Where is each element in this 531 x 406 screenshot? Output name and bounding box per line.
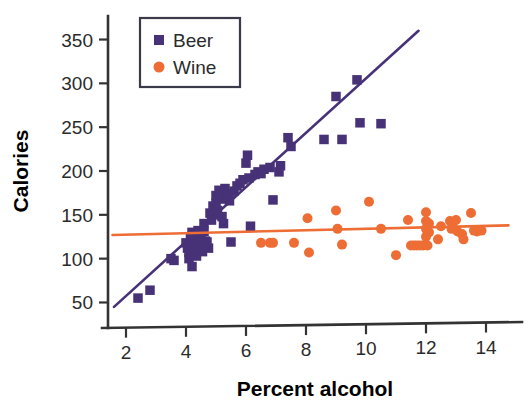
y-tick-label: 250 [61, 117, 93, 138]
y-tick-label: 50 [72, 292, 93, 313]
y-tick-label: 300 [61, 73, 93, 94]
data-point-beer [169, 256, 179, 266]
data-point-wine [364, 197, 374, 207]
data-point-beer [276, 161, 286, 171]
series-wine [113, 197, 509, 260]
data-point-beer [355, 118, 365, 128]
data-point-wine [337, 240, 347, 250]
data-point-wine [256, 238, 266, 248]
data-point-wine [331, 205, 341, 215]
data-point-beer [268, 195, 278, 205]
data-point-wine [477, 226, 487, 236]
data-point-beer [265, 163, 275, 173]
data-point-wine [436, 221, 446, 231]
x-axis-line [102, 322, 522, 328]
y-tick-label: 200 [61, 161, 93, 182]
data-point-wine [433, 234, 443, 244]
data-point-wine [421, 207, 431, 217]
data-point-beer [225, 196, 235, 206]
data-point-wine [424, 227, 434, 237]
data-point-wine [304, 248, 314, 258]
legend-label-wine: Wine [173, 57, 216, 78]
scatter-chart: 501001502002503003502468101214Percent al… [0, 0, 531, 406]
data-point-beer [145, 285, 155, 295]
data-point-wine [391, 250, 401, 260]
data-point-wine [451, 215, 461, 225]
legend-label-beer: Beer [173, 30, 214, 51]
y-tick-label: 350 [61, 30, 93, 51]
y-tick-label: 150 [61, 205, 93, 226]
data-point-beer [226, 237, 236, 247]
data-point-beer [319, 135, 329, 145]
data-point-beer [246, 221, 256, 231]
legend: BeerWine [140, 18, 240, 87]
data-point-beer [219, 219, 229, 229]
data-point-beer [376, 119, 386, 129]
data-point-wine [423, 241, 433, 251]
data-point-beer [352, 75, 362, 85]
data-point-wine [303, 213, 313, 223]
data-point-beer [187, 262, 197, 272]
x-tick-label: 8 [301, 339, 312, 360]
y-tick-label: 100 [61, 249, 93, 270]
data-point-beer [283, 133, 293, 143]
x-tick-label: 2 [121, 342, 132, 363]
x-axis-title: Percent alcohol [237, 377, 393, 400]
data-point-wine [466, 208, 476, 218]
data-point-beer [337, 135, 347, 145]
data-point-beer [286, 142, 296, 152]
data-point-beer [331, 92, 341, 102]
x-tick-label: 4 [181, 341, 192, 362]
y-axis-title: Calories [9, 130, 32, 213]
legend-marker-wine [154, 62, 165, 73]
data-point-beer [243, 150, 253, 160]
data-point-wine [403, 215, 413, 225]
x-tick-label: 12 [415, 337, 436, 358]
data-point-beer [133, 293, 143, 303]
data-point-wine [289, 238, 299, 248]
x-tick-label: 10 [355, 338, 376, 359]
data-point-wine [333, 224, 343, 234]
data-point-wine [268, 238, 278, 248]
data-point-wine [376, 224, 386, 234]
legend-marker-beer [154, 35, 164, 45]
x-tick-label: 6 [241, 340, 252, 361]
data-point-wine [424, 219, 434, 229]
chart-svg: 501001502002503003502468101214Percent al… [0, 0, 531, 406]
x-tick-label: 14 [475, 337, 497, 358]
data-point-wine [459, 234, 469, 244]
data-point-beer [204, 243, 214, 253]
